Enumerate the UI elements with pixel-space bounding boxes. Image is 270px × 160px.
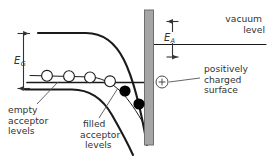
vacuum-level-label-line1: vacuum [225,13,262,24]
empty-acceptor-levels-line3: levels [8,125,35,136]
empty-acceptor-levels-line1: empty [8,104,38,115]
vacuum-level-label: vacuum level [225,13,265,35]
filled-acceptor-state [133,98,144,109]
filled-acceptor-levels-line2: acceptor [80,129,120,140]
positively-charged-surface-line1: positively [204,63,249,74]
empty-acceptor-levels-label: empty acceptor levels [8,104,51,136]
charged-surface-bar [145,10,154,145]
filled-acceptor-levels-line3: levels [85,139,112,150]
positive-charge-icon [156,76,168,88]
band-diagram-figure: EG EA vacuum [0,0,270,160]
positively-charged-surface-line3: surface [204,84,238,95]
vacuum-level-label-line2: level [243,24,265,35]
positively-charged-surface-line2: charged [204,74,241,85]
band-gap-subscript: G [21,60,26,68]
filled-acceptor-levels-line1: filled [83,118,105,129]
band-diagram-canvas: EG EA vacuum [0,0,270,160]
leader-line-positively-charged-surface [169,78,200,82]
leader-line-empty-acceptor-levels [37,82,58,104]
band-gap-label: EG [14,55,26,68]
empty-acceptor-levels-line2: acceptor [8,115,48,126]
filled-acceptor-state [119,85,130,96]
electron-affinity-subscript: A [170,37,176,45]
positively-charged-surface-label: positively charged surface [204,63,251,95]
